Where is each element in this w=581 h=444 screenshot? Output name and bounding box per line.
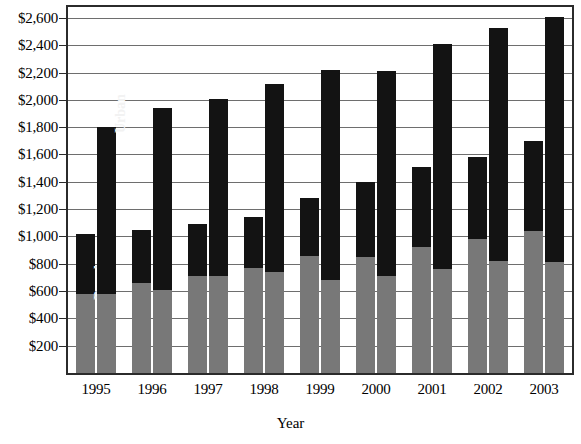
x-axis-tick-label: 1996 (137, 381, 166, 398)
bar (524, 141, 543, 373)
bar-segment-upper (377, 71, 396, 276)
bar-segment-upper (545, 17, 564, 263)
bar (188, 224, 207, 373)
y-axis-tick-mark (59, 73, 66, 74)
bar-segment-upper (321, 70, 340, 280)
bar (545, 17, 564, 373)
x-axis-tick-label: 1998 (249, 381, 278, 398)
bar-segment-upper (356, 182, 375, 257)
bar-segment-upper (209, 99, 228, 277)
y-axis-tick-mark (59, 291, 66, 292)
x-axis-tick-label: 1997 (193, 381, 222, 398)
bar-segment-upper (132, 230, 151, 283)
y-axis-tick-mark (59, 154, 66, 155)
bar (76, 234, 95, 373)
bar-segment-lower (321, 280, 340, 373)
y-axis-tick-mark (59, 346, 66, 347)
bar-segment-lower (356, 257, 375, 373)
bar (153, 108, 172, 373)
x-axis-tick-labels: 199519961997199819992000200120022003 (66, 381, 574, 405)
bar-segment-lower (489, 261, 508, 373)
bar (300, 198, 319, 373)
bar (209, 99, 228, 374)
bar-segment-lower (188, 276, 207, 373)
y-axis-tick-mark (59, 236, 66, 237)
x-axis-tick-label: 2003 (529, 381, 558, 398)
x-axis-title: Year (0, 415, 581, 432)
bar-segment-lower (377, 276, 396, 373)
x-axis-tick-label: 1999 (305, 381, 334, 398)
bar (244, 217, 263, 373)
bar (468, 157, 487, 373)
bar (412, 167, 431, 373)
bar-segment-lower (412, 247, 431, 373)
bar-segment-upper (489, 28, 508, 262)
y-axis-tick-mark (59, 18, 66, 19)
bar-segment-upper (76, 234, 95, 294)
y-axis-tick-mark (59, 100, 66, 101)
bar-segment-lower (265, 272, 284, 373)
bar-segment-upper (188, 224, 207, 276)
bar-segment-upper (153, 108, 172, 290)
bar-segment-lower (244, 268, 263, 373)
bar (132, 230, 151, 373)
x-axis-tick-label: 2002 (473, 381, 502, 398)
y-axis-tick-mark (59, 45, 66, 46)
bar-segment-lower (76, 294, 95, 373)
gridline (68, 18, 572, 19)
bar-segment-lower (209, 276, 228, 373)
bar-segment-upper (97, 127, 116, 294)
bar-chart: $200$400$600$800$1,000$1,200$1,400$1,600… (0, 0, 581, 444)
y-axis-tick-marks (0, 0, 66, 444)
bar-segment-lower (132, 283, 151, 373)
y-axis-tick-mark (59, 318, 66, 319)
plot-area: RuralUrban (66, 5, 574, 375)
x-axis-tick-label: 1995 (81, 381, 110, 398)
bar-segment-upper (412, 167, 431, 248)
bar-segment-upper (468, 157, 487, 239)
bar-segment-upper (244, 217, 263, 268)
bar (489, 28, 508, 374)
bar (97, 127, 116, 373)
bar-segment-lower (545, 262, 564, 373)
bar-segment-upper (265, 84, 284, 272)
bar-segment-upper (300, 198, 319, 255)
bar-segment-lower (153, 290, 172, 373)
bar (356, 182, 375, 373)
y-axis-tick-mark (59, 127, 66, 128)
bar (321, 70, 340, 373)
bar-segment-lower (300, 256, 319, 373)
bar-segment-upper (524, 141, 543, 231)
bar-segment-lower (524, 231, 543, 373)
bar-segment-lower (468, 239, 487, 373)
bar (265, 83, 284, 373)
bar (433, 44, 452, 373)
bar-segment-lower (97, 294, 116, 373)
bar-segment-upper (433, 44, 452, 269)
bar-segment-lower (433, 269, 452, 373)
x-axis-tick-label: 2001 (417, 381, 446, 398)
x-axis-tick-label: 2000 (361, 381, 390, 398)
y-axis-tick-mark (59, 264, 66, 265)
y-axis-tick-mark (59, 209, 66, 210)
bar (377, 71, 396, 373)
y-axis-tick-mark (59, 182, 66, 183)
